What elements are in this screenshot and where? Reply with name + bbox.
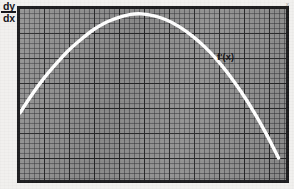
y-axis-label-numerator: dy — [1, 1, 17, 11]
scan-artifact-mark: x — [286, 1, 289, 7]
curve-label-f-prime-x: f'(x) — [217, 53, 234, 62]
derivative-curve-svg — [20, 9, 286, 180]
y-axis-label-dy-dx: dy dx — [1, 1, 17, 23]
derivative-curve-path — [20, 14, 279, 158]
y-axis-label-denominator: dx — [1, 13, 17, 23]
derivative-graph-figure: dy dx x f'(x) — [0, 0, 294, 189]
plot-area: f'(x) — [17, 6, 289, 183]
